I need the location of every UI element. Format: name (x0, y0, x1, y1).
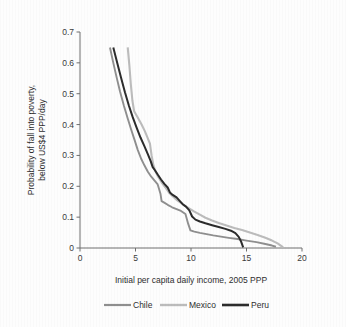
y-tick-label: 0.5 (62, 89, 74, 99)
x-axis-ticks (80, 248, 302, 252)
y-tick-label: 0.2 (62, 181, 74, 191)
chart-legend: ChileMexicoPeru (104, 300, 269, 310)
x-axis-tick-labels: 05101520 (78, 253, 307, 263)
figure-container: 00.10.20.30.40.50.60.7 05101520 Initial … (0, 0, 346, 327)
x-tick-label: 10 (186, 253, 196, 263)
y-tick-label: 0.1 (62, 212, 74, 222)
y-tick-label: 0.6 (62, 58, 74, 68)
legend-label-chile: Chile (133, 300, 153, 310)
y-axis-tick-labels: 00.10.20.30.40.50.60.7 (62, 27, 74, 253)
data-series-group (110, 47, 283, 247)
y-tick-label: 0.4 (62, 120, 74, 130)
x-tick-label: 0 (78, 253, 83, 263)
x-tick-label: 20 (297, 253, 307, 263)
x-axis-title: Initial per capita daily income, 2005 PP… (115, 275, 267, 285)
x-tick-label: 5 (133, 253, 138, 263)
legend-label-peru: Peru (251, 300, 269, 310)
x-tick-label: 15 (242, 253, 252, 263)
series-line-peru (113, 47, 243, 247)
series-line-mexico (128, 47, 283, 247)
y-axis-title-line2: below US$4 PPP/day (37, 99, 47, 181)
legend-label-mexico: Mexico (189, 300, 216, 310)
y-tick-label: 0 (69, 243, 74, 253)
y-tick-label: 0.3 (62, 150, 74, 160)
y-axis-ticks (77, 32, 81, 248)
chart-plot: 00.10.20.30.40.50.60.7 05101520 Initial … (0, 0, 346, 327)
y-tick-label: 0.7 (62, 27, 74, 37)
y-axis-title-line1: Probability of fall into poverty, (26, 85, 36, 195)
